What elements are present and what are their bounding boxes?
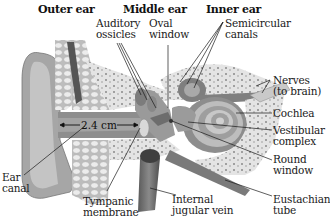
- label-oval-window: Oval window: [149, 18, 189, 40]
- label-round-window: Round window: [273, 154, 313, 176]
- label-tympanic-membrane: Tympanic membrane: [83, 196, 139, 218]
- label-line: jugular vein: [172, 205, 233, 216]
- header-outer-ear: Outer ear: [38, 3, 95, 16]
- label-line: window: [149, 29, 189, 40]
- label-semicircular-canals: Semicircular canals: [225, 18, 291, 40]
- label-line: ossicles: [96, 29, 140, 40]
- header-inner-ear: Inner ear: [206, 3, 261, 16]
- measurement-label: 2.4 cm: [81, 119, 117, 131]
- label-eustachian-tube: Eustachian tube: [273, 194, 330, 216]
- tympanic-membrane-shape: [139, 119, 149, 137]
- label-internal-jugular-vein: Internal jugular vein: [172, 194, 233, 216]
- label-nerves: Nerves (to brain): [273, 75, 321, 97]
- jugular-vein-shape: [138, 149, 160, 212]
- label-line: membrane: [83, 207, 139, 218]
- label-line: complex: [273, 136, 325, 147]
- label-line: Cochlea: [273, 108, 314, 119]
- label-line: canals: [225, 29, 291, 40]
- label-line: canal: [2, 183, 30, 194]
- label-ear-canal: Ear canal: [2, 172, 30, 194]
- label-cochlea: Cochlea: [273, 108, 314, 119]
- label-vestibular-complex: Vestibular complex: [273, 125, 325, 147]
- header-middle-ear: Middle ear: [123, 3, 187, 16]
- label-line: tube: [273, 205, 330, 216]
- label-auditory-ossicles: Auditory ossicles: [96, 18, 140, 40]
- label-line: (to brain): [273, 86, 321, 97]
- label-line: window: [273, 165, 313, 176]
